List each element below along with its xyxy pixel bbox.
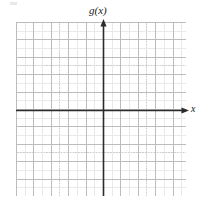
x-axis-label: x [191, 104, 195, 114]
scan-artifact [10, 2, 17, 5]
figure-canvas: g(x) x [0, 0, 200, 209]
y-axis-label: g(x) [89, 5, 107, 16]
coordinate-grid [16, 22, 186, 196]
